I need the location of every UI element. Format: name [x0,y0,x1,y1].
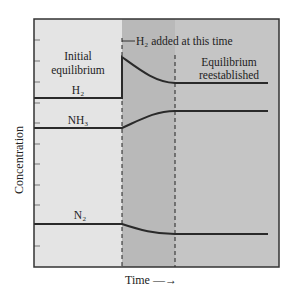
initial-label-line1: Initial [64,50,91,62]
y-axis-label: Concentration [12,126,26,194]
h2-added-label: H₂ added at this time [136,35,233,47]
series-label-nh3: NH₃ [68,114,89,126]
series-label-h2: H₂ [72,84,84,96]
reestablished-label-line2: reestablished [199,69,259,81]
series-label-n2: N₂ [74,209,86,221]
initial-label-line2: equilibrium [51,64,105,77]
reestablished-label-line1: Equilibrium [201,56,257,69]
equilibrium-chart: Initial equilibrium H₂ added at this tim… [0,0,293,294]
x-axis-label: Time —→ [125,273,177,287]
region-shift [122,19,175,267]
